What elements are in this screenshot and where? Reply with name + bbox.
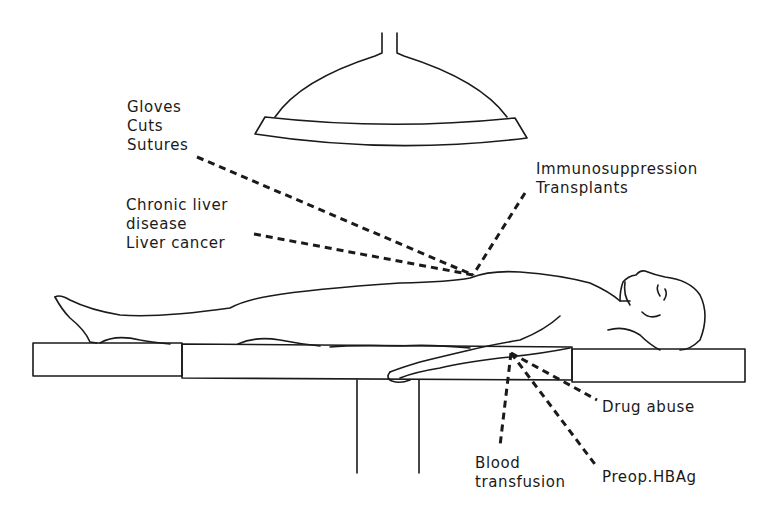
label-drug-abuse: Drug abuse (602, 398, 695, 417)
label-sutures: Sutures (127, 136, 189, 155)
label-drug: Drug abuse (602, 398, 695, 417)
label-blood: Blood transfusion (475, 454, 566, 492)
label-disease: disease (126, 215, 228, 234)
label-liver: Chronic liver disease Liver cancer (126, 196, 228, 253)
label-immunosuppression: Immunosuppression (536, 160, 698, 179)
leader-surgery (197, 157, 473, 275)
label-chronic-liver: Chronic liver (126, 196, 228, 215)
label-liver-cancer: Liver cancer (126, 234, 228, 253)
leader-preop (511, 353, 597, 467)
leader-liver (254, 234, 473, 275)
label-cuts: Cuts (127, 117, 189, 136)
surgical-lamp-icon (255, 33, 527, 146)
label-preop-hbag: Preop.HBAg (602, 468, 697, 487)
label-transplants: Transplants (536, 179, 698, 198)
label-transfusion: transfusion (475, 473, 566, 492)
patient-figure-icon (55, 271, 705, 382)
label-surgery: Gloves Cuts Sutures (127, 98, 189, 155)
diagram-canvas (0, 0, 778, 516)
leader-blood (500, 353, 511, 446)
label-gloves: Gloves (127, 98, 189, 117)
label-preop: Preop.HBAg (602, 468, 697, 487)
leader-lines (197, 157, 597, 467)
leader-immuno (473, 193, 525, 275)
label-blood-word: Blood (475, 454, 566, 473)
leader-drug (511, 353, 597, 400)
label-immuno: Immunosuppression Transplants (536, 160, 698, 198)
